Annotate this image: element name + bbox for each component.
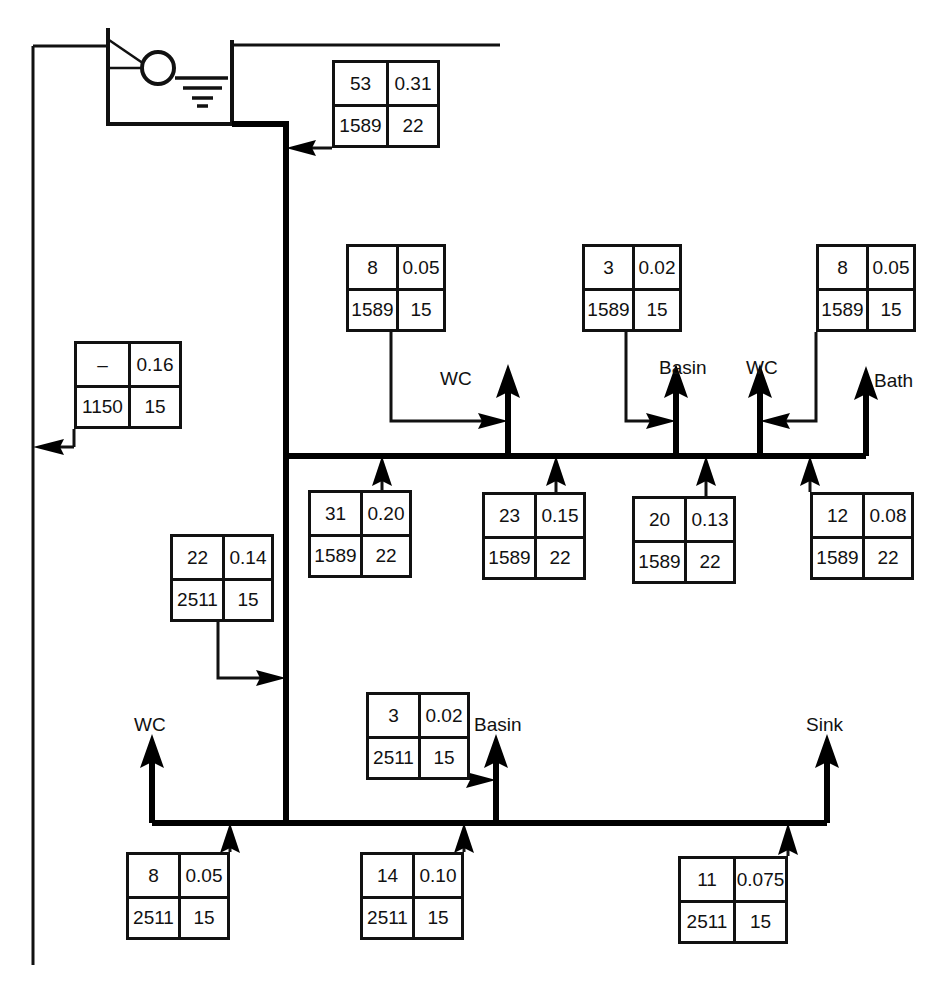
connector-box-basin-lower	[466, 772, 496, 788]
fixture-label-basin-lower: Basin	[474, 714, 522, 736]
box-branch-22-cell-bl: 2511	[173, 578, 222, 619]
box-wc-upper: 80.05158915	[346, 244, 446, 332]
box-sink-lower-cell-tl: 11	[681, 859, 733, 900]
box-sink-lower-cell-bl: 2511	[681, 900, 733, 941]
riser-sink	[815, 734, 839, 823]
box-basin-lower-cell-bl: 2511	[369, 736, 418, 777]
box-basin-upper-cell-tl: 3	[585, 247, 632, 288]
box-branch-22-cell-tl: 22	[173, 537, 222, 578]
box-branch-20: 200.13158922	[632, 496, 736, 584]
box-bath-upper: 80.05158915	[816, 244, 916, 332]
fixture-label-wc-lower: WC	[134, 714, 166, 736]
box-riser-left-cell-bl: 1150	[77, 385, 128, 426]
box-branch-20-cell-bl: 1589	[635, 540, 684, 581]
connector-box-branch-23	[546, 456, 566, 492]
box-wc-upper-cell-bl: 1589	[349, 288, 396, 329]
box-bath-upper-cell-tr: 0.05	[866, 247, 913, 288]
box-branch-20-cell-tr: 0.13	[684, 499, 733, 540]
box-branch-20-cell-br: 22	[684, 540, 733, 581]
box-branch-31-cell-tl: 31	[311, 493, 360, 534]
box-basin-upper: 30.02158915	[582, 244, 682, 332]
box-branch-23: 230.15158922	[482, 492, 586, 580]
box-branch-12-cell-tl: 12	[813, 495, 862, 536]
box-basin-lower: 30.02251115	[366, 692, 470, 780]
box-branch-12-cell-bl: 1589	[813, 536, 862, 577]
box-cistern-feed-cell-tr: 0.31	[386, 63, 437, 104]
connector-box-branch-12	[800, 456, 820, 492]
riser-wc-lower	[140, 734, 164, 823]
box-wc-lower-cell-br: 15	[178, 896, 227, 937]
fixture-label-bath: Bath	[874, 370, 913, 392]
fixture-label-wc-mid: WC	[746, 357, 778, 379]
box-basin-lower-cell-br: 15	[418, 736, 467, 777]
connector-box-wc-lower	[220, 823, 240, 853]
box-branch-23-cell-tl: 23	[485, 495, 534, 536]
box-bath-upper-cell-bl: 1589	[819, 288, 866, 329]
connector-box-sink-lower	[778, 823, 798, 856]
box-wc-lower-cell-tr: 0.05	[178, 855, 227, 896]
box-mid-lower: 140.10251115	[360, 852, 464, 940]
riser-wc-upper	[496, 364, 520, 456]
rising-main-and-top-feed	[33, 45, 500, 965]
box-mid-lower-cell-tl: 14	[363, 855, 412, 896]
box-basin-lower-cell-tl: 3	[369, 695, 418, 736]
box-branch-31-cell-bl: 1589	[311, 534, 360, 575]
box-basin-upper-cell-bl: 1589	[585, 288, 632, 329]
box-branch-23-cell-br: 22	[534, 536, 583, 577]
connector-box-branch-20	[696, 456, 716, 496]
box-sink-lower-cell-br: 15	[733, 900, 785, 941]
connector-box-riser-left	[33, 429, 74, 455]
fixture-label-basin-upper: Basin	[659, 357, 707, 379]
box-cistern-feed-cell-tl: 53	[335, 63, 386, 104]
box-branch-22: 220.14251115	[170, 534, 274, 622]
box-cistern-feed-cell-bl: 1589	[335, 104, 386, 145]
connector-box-branch-31	[372, 456, 392, 490]
box-sink-lower: 110.075251115	[678, 856, 788, 944]
box-sink-lower-cell-tr: 0.075	[733, 859, 785, 900]
box-wc-lower: 80.05251115	[126, 852, 230, 940]
box-basin-upper-cell-br: 15	[632, 288, 679, 329]
box-riser-left-cell-br: 15	[128, 385, 179, 426]
box-branch-12-cell-tr: 0.08	[862, 495, 911, 536]
box-branch-12: 120.08158922	[810, 492, 914, 580]
box-riser-left-cell-tl: –	[77, 344, 128, 385]
box-basin-upper-cell-tr: 0.02	[632, 247, 679, 288]
box-branch-22-cell-br: 15	[222, 578, 271, 619]
connector-box-bath-upper	[760, 332, 816, 429]
box-wc-lower-cell-bl: 2511	[129, 896, 178, 937]
box-riser-left: –0.16115015	[74, 341, 182, 429]
box-basin-lower-cell-tr: 0.02	[418, 695, 467, 736]
box-wc-upper-cell-tr: 0.05	[396, 247, 443, 288]
box-branch-22-cell-tr: 0.14	[222, 537, 271, 578]
box-mid-lower-cell-tr: 0.10	[412, 855, 461, 896]
box-branch-31-cell-tr: 0.20	[360, 493, 409, 534]
box-mid-lower-cell-br: 15	[412, 896, 461, 937]
box-branch-20-cell-tl: 20	[635, 499, 684, 540]
box-branch-23-cell-bl: 1589	[485, 536, 534, 577]
box-branch-23-cell-tr: 0.15	[534, 495, 583, 536]
connector-box-cistern-feed	[286, 140, 332, 156]
connector-box-branch-22	[218, 622, 286, 686]
connector-box-mid-lower	[454, 823, 474, 853]
box-branch-31: 310.20158922	[308, 490, 412, 578]
cistern-tank	[108, 28, 232, 124]
box-cistern-feed: 530.31158922	[332, 60, 440, 148]
box-branch-12-cell-br: 22	[862, 536, 911, 577]
box-cistern-feed-cell-br: 22	[386, 104, 437, 145]
connector-box-basin-upper	[626, 332, 676, 429]
box-branch-31-cell-br: 22	[360, 534, 409, 575]
box-wc-upper-cell-tl: 8	[349, 247, 396, 288]
box-riser-left-cell-tr: 0.16	[128, 344, 179, 385]
schematic-drawing	[0, 0, 940, 990]
fixture-label-sink: Sink	[806, 714, 843, 736]
box-bath-upper-cell-br: 15	[866, 288, 913, 329]
box-wc-lower-cell-tl: 8	[129, 855, 178, 896]
box-mid-lower-cell-bl: 2511	[363, 896, 412, 937]
pipe-sizing-diagram: 530.31158922–0.1611501580.0515891530.021…	[0, 0, 940, 990]
box-wc-upper-cell-br: 15	[396, 288, 443, 329]
box-bath-upper-cell-tl: 8	[819, 247, 866, 288]
fixture-label-wc-upper: WC	[440, 368, 472, 390]
